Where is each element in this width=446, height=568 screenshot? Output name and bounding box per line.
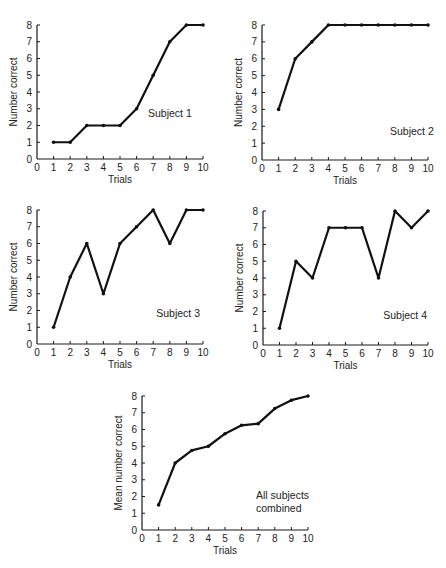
data-point [102,124,106,128]
data-point [118,124,122,128]
x-tick-label: 2 [67,347,73,358]
y-tick-label: 4 [252,273,258,284]
x-tick-label: 1 [276,163,282,174]
x-tick-label: 2 [172,533,178,544]
x-tick-label: 8 [167,162,173,173]
x-tick-label: 7 [255,533,261,544]
x-tick-label: 5 [222,533,228,544]
y-tick-label: 7 [131,407,137,418]
x-tick-label: 5 [117,347,123,358]
y-tick-label: 8 [252,206,258,217]
y-axis-label: Mean number correct [113,415,124,510]
panel-annotation: Subject 3 [156,307,200,319]
data-point [290,398,294,402]
x-tick-label: 3 [189,533,195,544]
x-tick-label: 3 [310,348,316,359]
data-point [168,242,172,246]
x-tick-label: 3 [309,163,315,174]
x-tick-label: 4 [326,348,332,359]
data-point [85,242,89,246]
data-point [240,424,244,428]
learning-curves-figure: 012345678910012345678TrialsNumber correc… [0,0,446,568]
data-point [310,40,314,44]
y-tick-label: 0 [26,339,32,350]
y-tick-label: 1 [252,323,258,334]
y-tick-label: 5 [26,70,32,81]
data-point [327,226,331,230]
y-axis-label: Number correct [233,58,244,127]
x-tick-label: 0 [259,163,265,174]
y-tick-label: 7 [26,221,32,232]
x-axis-label: Trials [213,545,237,556]
y-tick-label: 5 [251,70,257,81]
y-tick-label: 4 [26,87,32,98]
data-point [360,226,364,230]
y-tick-label: 6 [26,53,32,64]
data-point [277,108,281,112]
x-axis-label: Trials [333,360,357,371]
x-tick-label: 4 [206,533,212,544]
x-tick-label: 6 [134,162,140,173]
y-tick-label: 6 [252,239,258,250]
y-tick-label: 5 [131,441,137,452]
y-axis-label: Number correct [8,57,19,126]
x-tick-label: 7 [376,348,382,359]
data-point [68,140,72,144]
x-tick-label: 0 [139,533,145,544]
panel-annotation: All subjects [256,489,309,501]
series-line [279,25,428,109]
data-point [207,444,211,448]
data-point [185,23,189,27]
y-tick-label: 6 [26,238,32,249]
y-tick-label: 1 [131,508,137,519]
y-tick-label: 3 [26,103,32,114]
panel-annotation: Subject 2 [390,125,434,137]
x-tick-label: 7 [150,347,156,358]
y-tick-label: 2 [252,306,258,317]
panel-annotation: Subject 1 [148,107,192,119]
y-tick-label: 8 [251,20,257,31]
data-point [376,23,380,27]
x-tick-label: 3 [84,162,90,173]
x-tick-label: 4 [101,162,107,173]
x-tick-label: 9 [184,347,190,358]
x-tick-label: 6 [239,533,245,544]
y-tick-label: 1 [251,138,257,149]
data-point [311,276,315,280]
data-point [190,449,194,453]
y-tick-label: 2 [131,491,137,502]
y-tick-label: 8 [131,391,137,402]
x-tick-label: 9 [409,163,415,174]
y-tick-label: 0 [252,340,258,351]
data-point [294,259,298,263]
y-tick-label: 5 [252,256,258,267]
data-point [278,326,282,330]
x-tick-label: 5 [342,163,348,174]
data-point [168,40,172,44]
chart-panel-all-subjects: 012345678910012345678TrialsMean number c… [113,391,314,557]
data-point [157,503,161,507]
data-point [52,140,56,144]
data-point [201,23,205,27]
data-point [426,23,430,27]
data-point [393,23,397,27]
y-axis-label: Number correct [234,243,245,312]
x-tick-label: 8 [392,163,398,174]
x-axis-label: Trials [333,175,357,186]
panel-annotation: combined [256,502,302,514]
x-tick-label: 10 [302,533,314,544]
x-axis-label: Trials [108,359,132,370]
data-point [256,422,260,426]
data-point [68,275,72,279]
y-tick-label: 8 [26,20,32,31]
x-tick-label: 0 [34,347,40,358]
x-tick-label: 0 [260,348,266,359]
x-tick-label: 1 [156,533,162,544]
x-tick-label: 5 [343,348,349,359]
y-tick-label: 4 [131,458,137,469]
y-tick-label: 2 [251,121,257,132]
x-tick-label: 2 [292,163,298,174]
x-tick-label: 1 [51,162,57,173]
y-tick-label: 2 [26,305,32,316]
data-point [293,57,297,61]
